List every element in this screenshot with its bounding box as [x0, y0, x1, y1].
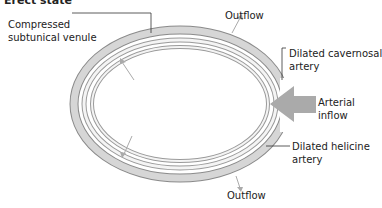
label-line: subtunical venule — [8, 31, 97, 44]
label-compressed-venule: Compressed subtunical venule — [8, 18, 97, 44]
label-line: artery — [292, 153, 370, 166]
label-line: Arterial — [318, 96, 355, 109]
label-line: artery — [289, 60, 382, 73]
label-outflow-top: Outflow — [225, 9, 264, 22]
label-line: inflow — [318, 109, 355, 122]
label-cavernosal-artery: Dilated cavernosal artery — [289, 47, 382, 73]
label-line: Dilated helicine — [292, 140, 370, 153]
inflow-arrow — [270, 86, 316, 122]
label-line: Compressed — [8, 18, 97, 31]
label-helicine-artery: Dilated helicine artery — [292, 140, 370, 166]
label-line: Dilated cavernosal — [289, 47, 382, 60]
label-arterial-inflow: Arterial inflow — [318, 96, 355, 122]
label-outflow-bottom: Outflow — [227, 189, 266, 202]
